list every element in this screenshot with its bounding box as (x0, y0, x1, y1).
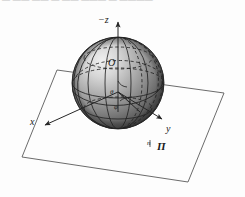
axis-label-x: x (30, 117, 34, 127)
axis-label-z: −z (98, 15, 109, 25)
figure-root: — —— —— — —— ——— — ———— (0, 0, 245, 197)
normal-label-n: n (147, 140, 151, 147)
origin-label: O (108, 58, 115, 68)
sphere-diagram-svg (0, 0, 245, 197)
angle-label-phi: φ (114, 104, 118, 111)
plane-label-pi: П (157, 141, 166, 152)
angle-label-theta: θ (110, 89, 113, 96)
axis-label-y: y (166, 124, 170, 134)
